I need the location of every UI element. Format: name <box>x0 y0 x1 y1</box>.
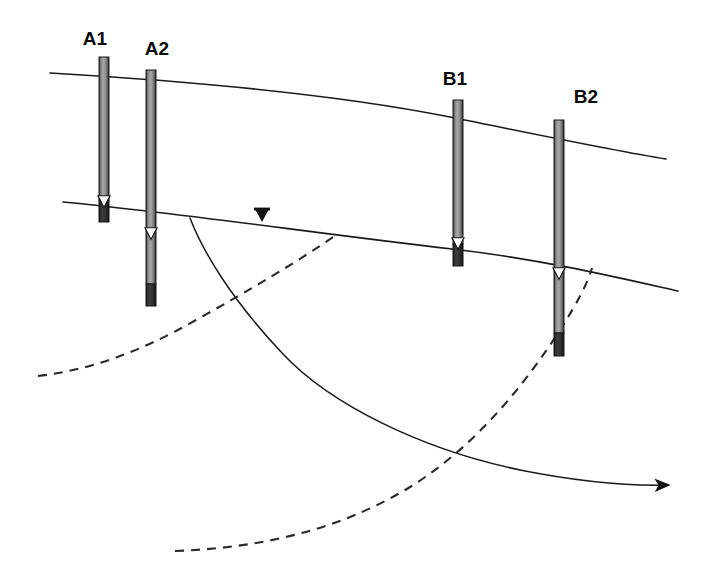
well-b2 <box>553 120 565 356</box>
well-label-b1: B1 <box>443 68 468 89</box>
well-a2 <box>145 70 157 306</box>
well-casing-b2 <box>554 120 564 333</box>
water-table-triangle-cap <box>254 208 270 211</box>
well-label-a1: A1 <box>83 28 108 49</box>
well-label-a2: A2 <box>145 38 170 59</box>
well-a1 <box>98 57 110 222</box>
well-label-b2: B2 <box>574 86 599 107</box>
well-casing-b1 <box>453 100 463 244</box>
well-screen-a2 <box>146 284 156 306</box>
well-casing-a1 <box>99 57 109 200</box>
well-b1 <box>452 100 464 266</box>
diagram-canvas: A1A2B1B2 <box>0 0 708 580</box>
well-casing-a2 <box>146 70 156 284</box>
cross-section-diagram: A1A2B1B2 <box>0 0 708 580</box>
well-screen-b2 <box>554 333 564 356</box>
